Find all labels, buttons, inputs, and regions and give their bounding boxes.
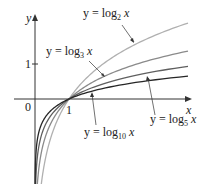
label-log5: y = log5 x	[150, 112, 197, 128]
y-axis-arrow-icon	[32, 14, 38, 21]
log-functions-chart: y x 0 1 1 y = log2 x y = log3 x y = log1…	[0, 0, 208, 184]
y-tick-label-1: 1	[25, 57, 31, 71]
leader-log5	[148, 78, 155, 115]
x-axis-arrow-icon	[185, 96, 192, 102]
y-axis-label: y	[25, 11, 32, 25]
label-log2: y = log2 x	[83, 6, 130, 22]
leader-log2-arrow-icon	[130, 38, 134, 43]
origin-label: 0	[25, 100, 31, 114]
x-tick-label-1: 1	[66, 103, 72, 117]
leader-log10-arrow-icon	[90, 92, 94, 97]
label-log10: y = log10 x	[84, 125, 135, 141]
label-log3: y = log3 x	[46, 44, 93, 60]
